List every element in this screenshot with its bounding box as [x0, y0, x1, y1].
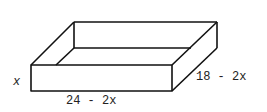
box-right-top-edge [172, 22, 217, 65]
width-label: 18 - 2x [196, 70, 246, 84]
box-left-top-edge [31, 22, 74, 65]
box-inner-floor-diagonal [56, 48, 74, 65]
length-label: 24 - 2x [66, 94, 116, 108]
height-label: x [12, 75, 21, 89]
box-front-face [31, 65, 172, 91]
open-box-diagram: x 24 - 2x 18 - 2x [0, 0, 267, 112]
